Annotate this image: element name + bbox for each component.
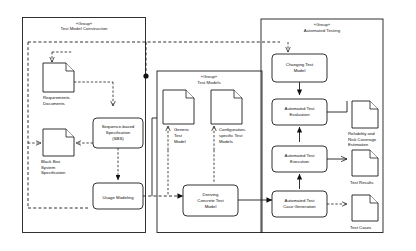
group-title-test-model-construction: Test Model Construction xyxy=(60,26,108,31)
activity-automated-test-execution: Automated Test Execution xyxy=(272,146,347,189)
artifact-label-line: Test xyxy=(174,133,183,138)
artifact-label-line: Requirements xyxy=(43,95,70,100)
activity-label-line: Case Generation xyxy=(283,204,316,209)
activity-sequence-based-specification: Sequence-based Specification (SBS) xyxy=(93,118,143,180)
activity-label-line: Automated Test xyxy=(285,198,316,203)
group-stereotype-label: «Group» xyxy=(314,22,331,27)
activity-label-line: Deriving xyxy=(203,192,219,197)
activity-label-line: Automated Test xyxy=(285,153,316,158)
artifact-reliability-risk-coverage-estimation: Reliability and Risk Coverage Estimation xyxy=(348,101,378,147)
artifact-configuration-specific-test-models: Configuration- specific Test Models xyxy=(211,90,247,182)
activity-label-line: (SBS) xyxy=(112,136,124,141)
activity-changing-test-model: Changing Test Model xyxy=(272,42,327,95)
activity-label-line: Execution xyxy=(290,159,309,164)
activity-label-line: Changing Test xyxy=(286,62,314,67)
artifact-test-cases: Test Cases xyxy=(350,195,378,230)
group-stereotype-label: «Group» xyxy=(201,74,218,79)
group-title-automated-testing: Automated Testing xyxy=(304,28,341,33)
artifact-black-box-system-specification: Black Box System Specification xyxy=(28,129,93,175)
artifact-label-line: Black Box xyxy=(41,159,61,164)
activity-label-line: Model xyxy=(205,204,217,209)
artifact-label-line: Specification xyxy=(41,170,66,175)
artifact-label-line: System xyxy=(41,165,56,170)
activity-label-line: Model xyxy=(294,68,306,73)
group-title-test-models: Test Models xyxy=(197,80,221,85)
activity-label-line: Concrete Test xyxy=(197,198,224,203)
artifact-label-line: Test Cases xyxy=(350,225,371,230)
artifact-label-line: Configuration- xyxy=(219,127,247,132)
artifact-label-line: Models xyxy=(219,139,233,144)
group-stereotype-label: «Group» xyxy=(76,21,93,26)
artifact-generic-test-model: Generic Test Model xyxy=(163,90,194,196)
artifact-requirements-documents: Requirements Documents xyxy=(43,52,113,106)
artifact-label-line: Generic xyxy=(174,127,190,132)
activity-automated-test-case-generation: Automated Test Case Generation xyxy=(272,191,347,217)
diagram-canvas: «Group» Test Model Construction «Group» … xyxy=(0,0,416,251)
artifact-label-line: Estimation xyxy=(348,142,369,147)
activity-label-line: Evaluation xyxy=(289,112,310,117)
artifact-label-line: Test Results xyxy=(350,180,373,185)
activity-label-line: Usage Modeling xyxy=(102,195,134,200)
activity-automated-test-evaluation: Automated Test Evaluation xyxy=(272,99,347,142)
artifact-label-line: specific Test xyxy=(219,133,243,138)
activity-label-line: Sequence-based xyxy=(102,124,135,129)
artifact-test-results: Test Results xyxy=(350,150,378,185)
artifact-label-line: Model xyxy=(174,139,186,144)
artifact-label-line: Risk Coverage xyxy=(348,137,377,142)
activity-label-line: Specification xyxy=(106,130,131,135)
activity-deriving-concrete-test-model: Deriving Concrete Test Model xyxy=(183,185,272,216)
artifact-label-line: Reliability and xyxy=(348,131,375,136)
artifact-label-line: Documents xyxy=(43,101,65,106)
activity-label-line: Automated Test xyxy=(285,106,316,111)
